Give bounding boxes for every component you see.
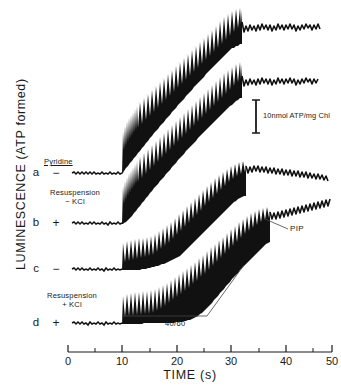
panel-label-d: d: [30, 316, 42, 328]
x-tick-label-0: 0: [56, 355, 80, 367]
pip-label: PIP: [290, 224, 304, 233]
panel-label-b: b: [30, 216, 42, 228]
trace-c: [72, 161, 328, 271]
panel-sign-c: −: [50, 262, 62, 276]
x-axis-title: TIME (s): [110, 368, 270, 382]
x-tick-label-20: 20: [165, 355, 189, 367]
panel-sign-a: −: [50, 166, 62, 180]
figure-root: LUMINESCENCE (ATP formed): [0, 0, 341, 389]
x-tick-label-50: 50: [320, 355, 341, 367]
scale-bar: [252, 100, 260, 133]
ratio-label: 40/60: [165, 319, 186, 328]
trace-a: [72, 8, 320, 174]
panel-sign-d: +: [50, 316, 62, 330]
panel-sign-b: +: [50, 216, 62, 230]
x-tick-label-40: 40: [274, 355, 298, 367]
x-axis-major-ticks: [68, 345, 332, 352]
resuspension-minus-kcl-line1: Resuspension: [47, 188, 103, 197]
resuspension-plus-kcl-line2: + KCl: [44, 300, 100, 309]
x-axis: [68, 345, 332, 352]
x-tick-label-10: 10: [110, 355, 134, 367]
resuspension-minus-kcl-line2: − KCl: [47, 197, 103, 206]
pyridine-label: Pyridine: [44, 157, 73, 166]
panel-label-c: c: [30, 262, 42, 274]
resuspension-plus-kcl-line1: Resuspension: [44, 291, 100, 300]
scale-bar-label: 10nmol ATP/mg Chl: [263, 111, 330, 120]
x-tick-label-30: 30: [219, 355, 243, 367]
panel-label-a: a: [30, 166, 42, 178]
